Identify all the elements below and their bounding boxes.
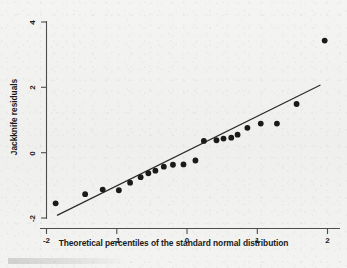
- y-tick-label-2: 2: [28, 78, 37, 98]
- axes-group: [40, 21, 340, 229]
- y-axis-title: Jackknife residuals: [9, 57, 19, 177]
- scatter-point: [235, 132, 241, 138]
- y-tick-label-4: 4: [28, 13, 37, 33]
- scatter-points: [53, 38, 328, 206]
- reference-line: [57, 85, 320, 215]
- scatter-point: [138, 174, 144, 180]
- qq-plot-figure: 4 2 0 -2 -2 -1 0 1 2 Theoretical percent…: [0, 0, 347, 268]
- scatter-point: [214, 137, 220, 143]
- scatter-point: [100, 187, 106, 193]
- scatter-point: [161, 164, 167, 170]
- scatter-point: [127, 180, 133, 186]
- y-tick-marks: [41, 22, 47, 218]
- scatter-point: [274, 121, 280, 127]
- scatter-point: [193, 158, 199, 164]
- scatter-point: [152, 168, 158, 174]
- x-tick-marks: [47, 229, 328, 235]
- scatter-point: [245, 125, 251, 131]
- scatter-point: [201, 138, 207, 144]
- plot-area: 4 2 0 -2 -2 -1 0 1 2 Theoretical percent…: [0, 0, 347, 268]
- scatter-point: [170, 162, 176, 168]
- scatter-point: [181, 162, 187, 168]
- scatter-point: [145, 170, 151, 176]
- page-caption-smudge: [8, 258, 128, 264]
- x-axis-title: Theoretical percentiles of the standard …: [0, 238, 347, 248]
- scatter-point: [228, 135, 234, 141]
- scatter-point: [322, 38, 328, 44]
- scatter-point: [294, 101, 300, 107]
- scatter-point: [116, 187, 122, 193]
- scatter-point: [221, 136, 227, 142]
- y-tick-label-0: 0: [28, 144, 37, 164]
- plot-canvas: [0, 0, 347, 268]
- scatter-point: [258, 121, 264, 127]
- scatter-point: [53, 200, 59, 206]
- y-tick-label-minus-2: -2: [28, 209, 37, 229]
- scatter-point: [82, 191, 88, 197]
